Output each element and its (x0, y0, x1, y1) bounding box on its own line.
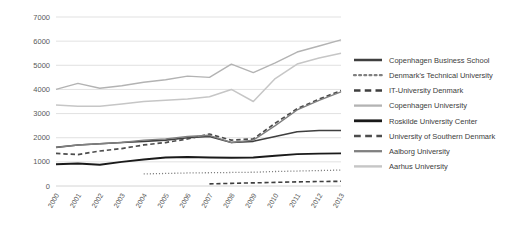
legend-label-4: Roskilde University Center (389, 117, 478, 126)
y-axis-tick-label: 6000 (33, 37, 50, 46)
gridlines (56, 17, 341, 186)
x-axis-tick-label: 2000 (47, 192, 61, 209)
y-axis-tick-label: 3000 (33, 109, 50, 118)
series-line-2 (209, 181, 341, 184)
x-axis-tick-label: 2007 (200, 192, 214, 209)
x-axis-tick-label: 2006 (178, 192, 192, 209)
y-axis-tick-label: 0 (46, 182, 50, 191)
series-line-5 (56, 91, 341, 155)
x-axis-tick-label: 2012 (310, 192, 324, 209)
series-line-3 (56, 40, 341, 89)
x-axis-tick-label: 2008 (222, 192, 236, 209)
chart-canvas: 01000200030004000500060007000 2000200120… (0, 0, 505, 225)
x-axis-tick-label: 2005 (156, 192, 170, 209)
x-axis-tick-label: 2004 (134, 192, 148, 209)
chart-legend: Copenhagen Business SchoolDenmark's Tech… (354, 56, 496, 171)
x-axis-tick-label: 2009 (244, 192, 258, 209)
line-chart: 01000200030004000500060007000 2000200120… (0, 0, 505, 225)
legend-label-1: Denmark's Technical University (389, 71, 493, 80)
legend-label-6: Aalborg University (389, 147, 450, 156)
legend-label-7: Aarhus University (389, 162, 448, 171)
y-axis-tick-label: 1000 (33, 157, 50, 166)
x-axis-tick-labels: 2000200120022003200420052006200720082009… (47, 192, 346, 209)
series-line-6 (56, 92, 341, 148)
legend-label-3: Copenhagen University (389, 101, 467, 110)
legend-label-0: Copenhagen Business School (389, 56, 490, 65)
y-axis-tick-labels: 01000200030004000500060007000 (33, 13, 50, 191)
series-line-4 (56, 153, 341, 164)
x-axis-tick-label: 2002 (90, 192, 104, 209)
y-axis-tick-label: 4000 (33, 85, 50, 94)
y-axis-tick-label: 5000 (33, 61, 50, 70)
x-axis-tick-label: 2013 (332, 192, 346, 209)
x-axis-tick-label: 2001 (68, 192, 82, 209)
series-line-1 (144, 170, 341, 174)
y-axis-tick-label: 2000 (33, 133, 50, 142)
series-line-7 (56, 53, 341, 106)
x-axis-tick-label: 2011 (288, 192, 302, 209)
legend-label-5: University of Southern Denmark (389, 132, 496, 141)
x-axis-tick-label: 2010 (266, 192, 280, 209)
x-axis-tick-label: 2003 (112, 192, 126, 209)
legend-label-2: IT-University Denmark (389, 86, 463, 95)
series-line-0 (56, 130, 341, 147)
y-axis-tick-label: 7000 (33, 13, 50, 22)
